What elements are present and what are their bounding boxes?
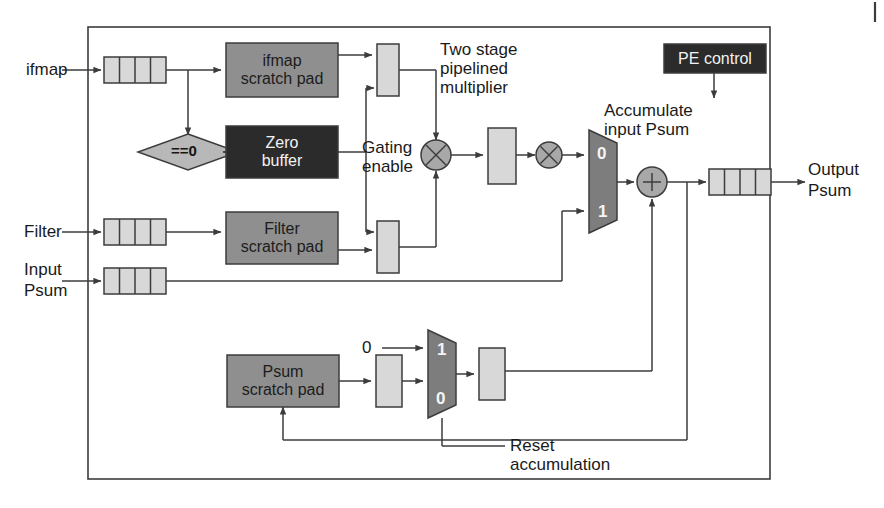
psum-scratch-pad-label: Psum scratch pad bbox=[227, 355, 339, 407]
output-psum-label-line2: Psum bbox=[808, 181, 851, 200]
filter-scratch-pad-label: Filter scratch pad bbox=[226, 212, 338, 264]
multiplier-pipeline-register bbox=[488, 128, 516, 184]
reset-mux-port-0: 0 bbox=[436, 390, 445, 407]
ifmap-input-label: ifmap bbox=[26, 60, 68, 79]
filter-scratch-pad-label-line1: Filter bbox=[264, 220, 300, 238]
pe-control-label: PE control bbox=[664, 44, 766, 73]
ifmap-scratch-pad-label: ifmap scratch pad bbox=[226, 43, 338, 97]
accumulate-input-psum-annotation: Accumulate input Psum bbox=[604, 101, 693, 139]
reset-mux-port-1: 1 bbox=[437, 341, 446, 358]
zero-buffer-label-line1: Zero bbox=[266, 134, 299, 152]
zero-comparator-label: ==0 bbox=[171, 143, 197, 160]
input-psum-label-line1: Input bbox=[24, 260, 62, 279]
psum-scratch-pad-label-line1: Psum bbox=[263, 363, 304, 381]
psum-read-register bbox=[376, 355, 402, 407]
output-psum-label-line1: Output bbox=[808, 160, 859, 179]
gating-enable-annotation: Gating enable bbox=[362, 138, 413, 176]
ifmap-scratch-pad-label-line1: ifmap bbox=[262, 52, 301, 70]
input-psum-label-line2: Psum bbox=[24, 281, 67, 300]
zero-constant-label: 0 bbox=[362, 338, 371, 357]
ifmap-operand-register bbox=[377, 44, 399, 96]
zero-buffer-label: Zero buffer bbox=[226, 126, 338, 178]
psum-scratch-pad-label-line2: scratch pad bbox=[242, 381, 325, 399]
zero-buffer-label-line2: buffer bbox=[262, 152, 303, 170]
two-stage-multiplier-annotation: Two stage pipelined multiplier bbox=[440, 40, 518, 97]
pe-datapath-figure: ifmap Filter Input Psum Output Psum ==0 … bbox=[0, 0, 884, 508]
filter-scratch-pad-label-line2: scratch pad bbox=[241, 238, 324, 256]
filter-input-label: Filter bbox=[24, 222, 62, 241]
accumulate-mux-port-0: 0 bbox=[597, 145, 606, 162]
ifmap-scratch-pad-label-line2: scratch pad bbox=[241, 70, 324, 88]
accumulate-mux-port-1: 1 bbox=[598, 203, 607, 220]
accumulate-operand-register bbox=[479, 348, 505, 400]
filter-operand-register bbox=[377, 221, 399, 273]
pe-control-label-text: PE control bbox=[678, 50, 752, 68]
reset-accumulation-annotation: Reset accumulation bbox=[510, 436, 610, 474]
